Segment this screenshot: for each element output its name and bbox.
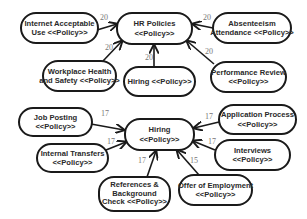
node-performance-review[interactable]: Performance Review <<Policy>> <box>210 61 287 93</box>
node-label: Workplace Health <box>48 67 112 76</box>
node-stereotype: <<Policy>> <box>195 190 235 199</box>
node-internet-acceptable-use[interactable]: Internet Acceptable Use <<Policy>> <box>20 12 99 44</box>
edge-internet-to-hr <box>97 24 117 30</box>
node-label: HR Policies <box>134 19 176 28</box>
node-hiring-policy-top[interactable]: Hiring <<Policy>> <box>123 66 196 97</box>
edge-weight-internal: 17 <box>107 137 115 146</box>
node-label: Interviews <box>234 146 271 155</box>
edge-jobposting-to-hiring <box>91 124 124 130</box>
node-job-posting[interactable]: Job Posting <<Policy>> <box>18 107 93 137</box>
node-workplace-health-safety[interactable]: Workplace Health and Safety <<Policy>> <box>42 60 117 92</box>
node-interviews[interactable]: Interviews <<Policy>> <box>214 139 291 171</box>
policy-dependency-diagram: Internet Acceptable Use <<Policy>> HR Po… <box>0 0 307 219</box>
node-application-process[interactable]: Application Process <<Policy>> <box>218 104 297 135</box>
node-label: Performance Review <box>211 68 286 77</box>
edge-weight-absenteeism: 20 <box>203 13 211 22</box>
edge-application-to-hiring <box>194 122 219 128</box>
node-hr-policies[interactable]: HR Policies <<Policy>> <box>116 12 193 45</box>
node-stereotype: <<Policy>> <box>237 120 277 129</box>
node-stereotype: <<Policy>> <box>139 135 179 144</box>
node-internal-transfers[interactable]: Internal Transfers <<Policy>> <box>36 143 109 173</box>
node-label: Offer of Employment <box>178 181 253 190</box>
node-stereotype: Use <<Policy>> <box>31 28 87 37</box>
edge-weight-application: 17 <box>205 112 213 121</box>
node-stereotype: Attendance <<Policy>> <box>210 28 294 37</box>
node-stereotype: <<Policy>> <box>232 155 272 164</box>
node-label-3: Check <<Policy>> <box>102 198 167 207</box>
node-label: Internal Transfers <box>41 149 105 158</box>
edge-weight-performance: 20 <box>205 47 213 56</box>
edge-weight-hiring-top: 20 <box>145 53 153 62</box>
node-references-background-check[interactable]: References & Background Check <<Policy>> <box>98 176 171 212</box>
node-stereotype: <<Policy>> <box>134 29 174 38</box>
node-label: Hiring <<Policy>> <box>127 77 191 86</box>
edge-weight-offer: 15 <box>190 156 198 165</box>
node-stereotype: <<Policy>> <box>35 122 75 131</box>
node-hiring-center[interactable]: Hiring <<Policy>> <box>124 118 195 151</box>
node-label: Absenteeism <box>228 19 275 28</box>
node-stereotype: and Safety <<Policy>> <box>39 76 120 85</box>
node-stereotype: <<Policy>> <box>228 77 268 86</box>
node-offer-of-employment[interactable]: Offer of Employment <<Policy>> <box>178 174 253 206</box>
node-label: Hiring <box>149 125 171 134</box>
node-stereotype: <<Policy>> <box>52 158 92 167</box>
edge-weight-workplace: 20 <box>105 43 113 52</box>
edge-weight-internet: 20 <box>100 13 108 22</box>
edge-references-to-hiring <box>147 151 156 177</box>
edge-weight-job-posting: 17 <box>101 109 109 118</box>
node-label: Internet Acceptable <box>24 19 94 28</box>
edge-weight-interviews: 17 <box>208 137 216 146</box>
node-label: Application Process <box>221 110 294 119</box>
edge-weight-references: 17 <box>138 156 146 165</box>
node-absenteeism-attendance[interactable]: Absenteeism Attendance <<Policy>> <box>212 12 292 44</box>
node-label: Job Posting <box>34 113 77 122</box>
